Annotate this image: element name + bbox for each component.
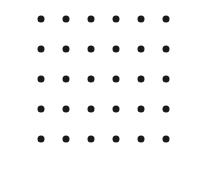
grid-dot xyxy=(163,16,170,23)
grid-dot xyxy=(138,136,145,143)
grid-dot xyxy=(88,46,95,53)
grid-dot xyxy=(163,136,170,143)
grid-dot xyxy=(113,46,120,53)
grid-dot xyxy=(38,76,45,83)
grid-dot xyxy=(138,46,145,53)
grid-dot xyxy=(113,136,120,143)
grid-dot xyxy=(163,76,170,83)
grid-dot xyxy=(88,76,95,83)
grid-dot xyxy=(63,76,70,83)
grid-dot xyxy=(113,106,120,113)
grid-dot xyxy=(63,16,70,23)
grid-dot xyxy=(113,16,120,23)
grid-dot xyxy=(88,136,95,143)
grid-dot xyxy=(163,106,170,113)
grid-dot xyxy=(138,76,145,83)
grid-dot xyxy=(38,46,45,53)
grid-dot xyxy=(38,106,45,113)
grid-dot xyxy=(138,106,145,113)
grid-dot xyxy=(138,16,145,23)
grid-dot xyxy=(88,106,95,113)
grid-dot xyxy=(63,106,70,113)
grid-dot xyxy=(113,76,120,83)
grid-dot xyxy=(38,136,45,143)
grid-dot xyxy=(63,136,70,143)
grid-dot xyxy=(38,16,45,23)
dot-grid xyxy=(0,0,205,172)
grid-dot xyxy=(163,46,170,53)
grid-dot xyxy=(63,46,70,53)
grid-dot xyxy=(88,16,95,23)
